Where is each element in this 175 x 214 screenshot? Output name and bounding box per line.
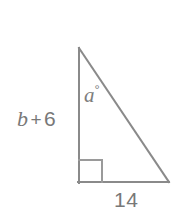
left-leg-operator: +: [29, 109, 45, 130]
angle-label: a°: [84, 83, 100, 106]
angle-variable: a: [84, 83, 95, 107]
left-leg-label: b+6: [17, 108, 56, 130]
left-leg-number: 6: [44, 107, 56, 130]
right-triangle-figure: b+6 a° 14: [0, 0, 175, 214]
degree-icon: °: [95, 82, 100, 97]
triangle-hypotenuse: [79, 48, 169, 182]
left-leg-variable: b: [17, 106, 29, 131]
right-angle-marker-icon: [79, 160, 102, 182]
base-label: 14: [114, 189, 138, 210]
